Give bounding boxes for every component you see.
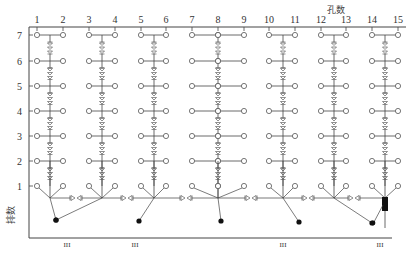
blast-hole xyxy=(86,83,91,88)
blast-hole xyxy=(112,133,117,138)
blast-hole xyxy=(318,108,323,113)
x-tick-label: 11 xyxy=(290,14,300,25)
blast-hole xyxy=(343,158,348,163)
blast-hole xyxy=(189,83,194,88)
blast-hole xyxy=(266,83,271,88)
blast-hole xyxy=(112,108,117,113)
y-tick-label: 1 xyxy=(17,181,22,192)
blast-hole xyxy=(112,183,117,188)
blast-hole xyxy=(34,133,39,138)
blast-hole xyxy=(138,32,143,37)
blast-hole xyxy=(369,158,374,163)
blast-hole xyxy=(292,108,297,113)
blast-hole xyxy=(343,133,348,138)
blast-hole xyxy=(138,108,143,113)
blast-hole xyxy=(34,158,39,163)
blast-hole xyxy=(369,83,374,88)
blast-hole xyxy=(215,83,220,88)
blast-hole xyxy=(343,32,348,37)
blast-hole xyxy=(241,183,246,188)
y-axis-ticks: 7654321 xyxy=(17,30,33,192)
blast-hole xyxy=(241,108,246,113)
x-tick-label: 6 xyxy=(164,14,169,25)
blast-hole xyxy=(318,158,323,163)
blast-hole xyxy=(395,133,400,138)
blast-hole xyxy=(189,32,194,37)
blast-hole xyxy=(86,32,91,37)
blast-hole xyxy=(138,58,143,63)
blast-hole xyxy=(112,58,117,63)
x-tick-label: 5 xyxy=(139,14,144,25)
blast-hole xyxy=(163,108,168,113)
blast-hole xyxy=(138,83,143,88)
blast-hole xyxy=(369,183,374,188)
bottom-mark: III xyxy=(64,241,72,249)
y-tick-label: 4 xyxy=(17,106,22,117)
blast-hole xyxy=(369,58,374,63)
blast-hole xyxy=(34,32,39,37)
hole-groups xyxy=(34,32,400,228)
y-tick-label: 5 xyxy=(17,81,22,92)
blast-hole xyxy=(34,108,39,113)
blast-hole xyxy=(60,83,65,88)
blast-hole xyxy=(86,133,91,138)
hole-group xyxy=(136,32,168,223)
y-tick-label: 2 xyxy=(17,156,22,167)
hole-group xyxy=(318,32,374,225)
blast-hole xyxy=(60,58,65,63)
blast-hole xyxy=(163,83,168,88)
blast-hole xyxy=(369,108,374,113)
blast-hole xyxy=(34,58,39,63)
bottom-marks: IIIIIIIIIIII xyxy=(64,241,385,249)
blast-hole xyxy=(241,83,246,88)
hole-group xyxy=(189,32,246,223)
blast-hole xyxy=(369,133,374,138)
blast-hole xyxy=(60,133,65,138)
x-tick-label: 7 xyxy=(190,14,195,25)
blast-hole xyxy=(395,183,400,188)
blast-hole xyxy=(189,183,194,188)
blast-hole xyxy=(138,133,143,138)
blast-network-diagram: 孔数 123456789101112131415 7654321 排数 IIII… xyxy=(0,0,416,253)
blast-hole xyxy=(60,183,65,188)
hole-group xyxy=(34,32,65,222)
detonator-point xyxy=(296,219,301,224)
detonator-point xyxy=(53,217,58,222)
blast-hole xyxy=(266,108,271,113)
blast-hole xyxy=(112,158,117,163)
blast-hole xyxy=(318,133,323,138)
blast-hole xyxy=(241,58,246,63)
x-tick-label: 12 xyxy=(316,14,326,25)
hole-group xyxy=(266,32,301,224)
x-tick-label: 9 xyxy=(242,14,247,25)
x-tick-label: 10 xyxy=(264,14,274,25)
blast-hole xyxy=(241,158,246,163)
x-tick-label: 13 xyxy=(341,14,351,25)
blast-hole xyxy=(292,133,297,138)
blast-hole xyxy=(215,183,220,188)
blast-hole xyxy=(215,32,220,37)
blast-hole xyxy=(369,32,374,37)
blast-hole xyxy=(318,58,323,63)
blast-hole xyxy=(112,32,117,37)
blast-hole xyxy=(395,58,400,63)
x-tick-label: 8 xyxy=(216,14,221,25)
blast-hole xyxy=(163,183,168,188)
detonator-point xyxy=(371,221,376,226)
x-tick-label: 2 xyxy=(61,14,66,25)
blast-hole xyxy=(292,183,297,188)
blast-hole xyxy=(343,83,348,88)
blast-hole xyxy=(266,183,271,188)
blast-hole xyxy=(241,133,246,138)
blast-hole xyxy=(60,158,65,163)
blast-hole xyxy=(343,108,348,113)
x-tick-label: 14 xyxy=(367,14,377,25)
blast-hole xyxy=(138,158,143,163)
blast-hole xyxy=(112,83,117,88)
detonator-point xyxy=(136,218,141,223)
initiator-block xyxy=(382,197,388,211)
blast-hole xyxy=(266,158,271,163)
blast-hole xyxy=(215,133,220,138)
blast-hole xyxy=(163,158,168,163)
blast-hole xyxy=(86,158,91,163)
